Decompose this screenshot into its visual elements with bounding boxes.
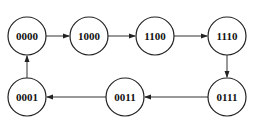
node-label: 1110 [217, 30, 238, 42]
node-label: 0011 [114, 91, 135, 103]
node-label: 1100 [144, 30, 166, 42]
state-node-0111: 0111 [208, 78, 246, 116]
state-node-0000: 0000 [8, 17, 46, 55]
state-node-0001: 0001 [8, 78, 46, 116]
node-label: 1000 [78, 30, 101, 42]
node-label: 0000 [16, 30, 39, 42]
state-diagram: 0000 1000 1100 1110 0111 0011 0001 [0, 0, 254, 127]
node-label: 0111 [217, 91, 238, 103]
state-node-1000: 1000 [70, 17, 108, 55]
state-node-1110: 1110 [208, 17, 246, 55]
state-node-0011: 0011 [106, 78, 144, 116]
node-label: 0001 [16, 91, 38, 103]
diagram-svg: 0000 1000 1100 1110 0111 0011 0001 [0, 0, 254, 127]
state-node-1100: 1100 [136, 17, 174, 55]
